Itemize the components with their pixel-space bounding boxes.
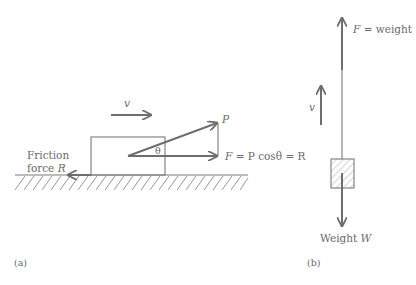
ground-surface bbox=[15, 175, 248, 190]
friction-label-line1: Friction bbox=[27, 149, 69, 161]
figure-b: F = weight v Weight W (b) bbox=[307, 18, 413, 268]
figure-a: v P θ F = P cosθ = R Friction force R (a… bbox=[14, 97, 307, 268]
weight-prefix: Weight bbox=[320, 232, 361, 244]
angle-theta-label: θ bbox=[155, 145, 161, 156]
friction-var: R bbox=[57, 162, 66, 174]
friction-prefix: force bbox=[27, 162, 58, 174]
weight-var: W bbox=[361, 232, 373, 244]
force-rest: = weight bbox=[360, 23, 413, 35]
panel-label-a: (a) bbox=[14, 257, 27, 268]
force-p-label: P bbox=[221, 113, 230, 125]
weight-label: Weight W bbox=[320, 232, 373, 244]
panel-label-b: (b) bbox=[307, 257, 321, 268]
friction-label-line2: force R bbox=[27, 162, 66, 174]
equation-label: F = P cosθ = R bbox=[224, 150, 307, 162]
equation-rest: = P cosθ = R bbox=[232, 150, 306, 162]
velocity-label-b: v bbox=[309, 101, 315, 113]
force-weight-label: F = weight bbox=[352, 23, 413, 35]
force-p-arrow bbox=[128, 123, 217, 156]
physics-force-diagram: v P θ F = P cosθ = R Friction force R (a… bbox=[0, 0, 416, 285]
velocity-label-a: v bbox=[124, 97, 130, 109]
